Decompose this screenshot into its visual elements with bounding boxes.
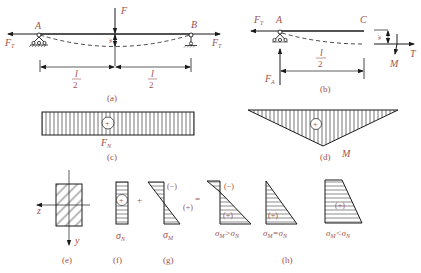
case-sigma-m-greater: (−) (+) σM>σN [207, 181, 251, 239]
case-sigma-m-equal: (+) σM=σN [263, 181, 297, 239]
label-sigma-m: σM [163, 229, 174, 241]
label-half-span-right-numerator: l [151, 68, 154, 79]
label-support-a: A [34, 20, 42, 31]
figure-canvas: F A B FT FT w l 2 l 2 (a) [0, 0, 421, 273]
label-tension-left: FT [253, 14, 264, 26]
caption-d: (d) [320, 152, 331, 162]
label-end-c: C [360, 14, 367, 25]
caption-h: (h) [282, 255, 293, 265]
operator-equals: = [195, 194, 200, 204]
caption-f: (f) [113, 255, 122, 265]
pin-support-a-icon [272, 30, 288, 42]
pin-support-a-icon [29, 33, 48, 47]
sign-plus: + [119, 196, 124, 205]
tension-triangle [164, 203, 180, 224]
sign-plus: (+) [268, 211, 278, 220]
panel-e-cross-section: z y (e) [36, 170, 90, 265]
panel-b-half-beam: l 2 w FT A C FA T M (b) [251, 14, 417, 94]
beam-stress-figure: F A B FT FT w l 2 l 2 (a) [0, 0, 421, 273]
moment-triangle [248, 110, 398, 146]
panel-f-axial-stress: + σN (f) [113, 182, 128, 265]
compression-triangle [148, 182, 164, 203]
panel-g-bending-stress: (−) (+) σM (g) [148, 182, 193, 265]
sign-plus: (+) [335, 201, 345, 210]
condition-label: σM>σN [215, 228, 240, 239]
label-tension-right: FT [211, 37, 222, 49]
panel-a-simply-supported-beam: F A B FT FT w l 2 l 2 (a) [4, 5, 222, 103]
panel-h-combined-stress: (−) (+) σM>σN (+) σM=σN (+) σM<σN (h) [207, 180, 362, 265]
label-half-span-denominator: 2 [318, 59, 323, 69]
label-fn: FN [100, 137, 112, 149]
label-axis-y: y [74, 235, 80, 246]
sign-minus: (−) [224, 182, 234, 191]
label-deflection-w: w [375, 35, 383, 40]
caption-c: (c) [107, 152, 117, 162]
label-half-span-left-numerator: l [75, 68, 78, 79]
condition-label: σM<σN [326, 228, 351, 239]
label-axis-z: z [36, 205, 41, 216]
case-sigma-m-less: (+) σM<σN [325, 180, 362, 239]
label-reaction-fa: FA [264, 73, 275, 85]
label-moment-m: M [389, 58, 399, 69]
sign-minus: (−) [167, 182, 177, 191]
label-support-b: B [191, 19, 197, 30]
label-half-span-right-denominator: 2 [149, 80, 154, 90]
operator-plus: + [137, 195, 142, 205]
sign-plus: + [313, 120, 318, 129]
compression-zone [207, 181, 220, 192]
sign-plus: (+) [183, 203, 193, 212]
label-axial-t: T [410, 48, 417, 59]
caption-a: (a) [107, 93, 117, 103]
deflection-curve [282, 33, 364, 44]
caption-b: (b) [320, 84, 331, 94]
label-m: M [341, 148, 351, 159]
roller-support-b-icon [184, 33, 197, 48]
panel-c-axial-force-diagram: + FN (c) [42, 112, 194, 162]
label-force-f: F [120, 5, 128, 16]
label-half-span-numerator: l [320, 47, 323, 58]
label-sigma-n: σN [116, 230, 126, 242]
caption-g: (g) [163, 255, 174, 265]
panel-d-moment-diagram: + M (d) [248, 110, 398, 162]
caption-e: (e) [62, 255, 72, 265]
label-half-span-left-denominator: 2 [73, 80, 78, 90]
label-support-a: A [275, 14, 283, 25]
label-tension-left: FT [4, 37, 15, 49]
sign-plus: + [105, 119, 110, 128]
label-deflection-w: w [106, 38, 114, 43]
sign-plus: (+) [223, 211, 233, 220]
axial-force-rect [42, 112, 194, 135]
condition-label: σM=σN [263, 228, 288, 239]
